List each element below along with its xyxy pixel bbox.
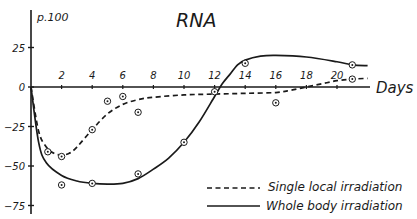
- legend: Single local irradiation Whole body irra…: [207, 180, 403, 213]
- y-ticks: 250−25−50−75: [4, 43, 34, 212]
- data-point-dot: [351, 64, 353, 66]
- data-point-dot: [107, 100, 109, 102]
- data-point-dot: [214, 91, 216, 93]
- data-point-dot: [47, 151, 49, 153]
- data-point-dot: [122, 95, 124, 97]
- y-tick-label: 25: [12, 43, 25, 54]
- legend-solid-label: Whole body irradiation: [266, 199, 403, 213]
- data-point-dot: [183, 141, 185, 143]
- data-point-dot: [244, 62, 246, 64]
- x-tick-label: 12: [208, 70, 221, 81]
- x-tick-label: 8: [150, 70, 156, 81]
- y-tick-label: −25: [4, 122, 25, 133]
- y-tick-label: 0: [19, 82, 25, 93]
- data-point-dot: [61, 184, 63, 186]
- x-axis-label: Days: [376, 79, 414, 97]
- data-point-dot: [137, 173, 139, 175]
- data-point-dot: [61, 156, 63, 158]
- whole-body-curve: [31, 55, 368, 184]
- legend-dashed-label: Single local irradiation: [268, 180, 402, 194]
- data-point-dot: [91, 129, 93, 131]
- data-point-dot: [351, 78, 353, 80]
- x-tick-label: 4: [89, 70, 95, 81]
- x-ticks: 2468101214161820: [58, 70, 343, 89]
- data-point-dot: [137, 111, 139, 113]
- x-tick-label: 2: [58, 70, 64, 81]
- x-tick-label: 6: [120, 70, 126, 81]
- x-tick-label: 16: [269, 70, 282, 81]
- y-tick-label: −75: [4, 201, 25, 212]
- data-point-dot: [91, 182, 93, 184]
- x-tick-label: 18: [300, 70, 313, 81]
- x-tick-label: 14: [239, 70, 252, 81]
- series-curves: [31, 55, 368, 184]
- y-tick-label: −50: [4, 161, 25, 172]
- x-tick-label: 10: [178, 70, 191, 81]
- y-unit-label: p.100: [36, 11, 68, 24]
- chart-title: RNA: [176, 9, 216, 31]
- single-local-curve: [31, 78, 368, 155]
- rna-chart: 250−25−50−75 2468101214161820 RNA p.100 …: [0, 0, 417, 219]
- data-point-dot: [275, 102, 277, 104]
